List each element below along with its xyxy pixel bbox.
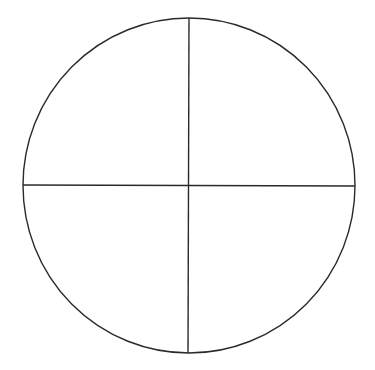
quadrant-circle-diagram xyxy=(0,0,375,370)
diagram-canvas xyxy=(0,0,375,370)
